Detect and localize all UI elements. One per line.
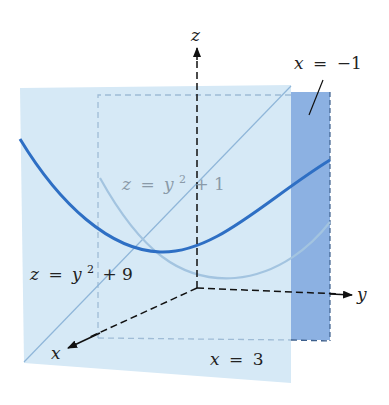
- front-plane-x-3: [20, 85, 291, 383]
- x-axis-label: x: [51, 343, 61, 363]
- back-plane-label: x = −1: [294, 53, 362, 73]
- z-axis-label: z: [190, 25, 201, 45]
- traces-diagram: z y x x = −1 x = 3 z = y 2 + 1 z = y 2 +…: [0, 0, 389, 405]
- y-axis-label: y: [356, 284, 367, 304]
- front-plane-label: x = 3: [210, 349, 263, 369]
